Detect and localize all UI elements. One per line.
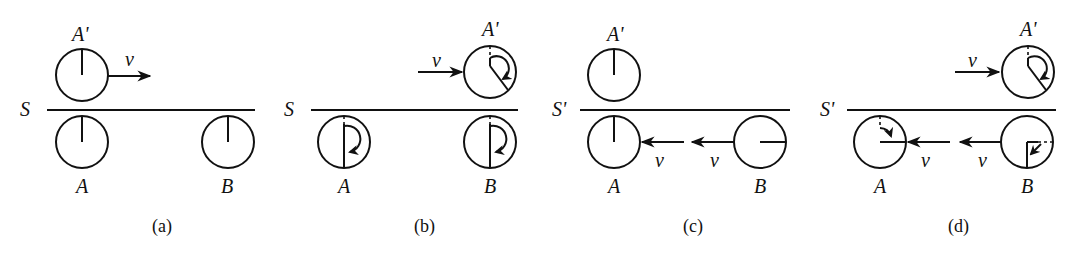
rotation-arrow: [490, 56, 509, 79]
rotation-arrow: [344, 126, 360, 152]
velocity-label: v: [432, 49, 441, 71]
clock-a: [588, 116, 640, 168]
frame-label: S: [20, 98, 30, 120]
velocity-label: v: [655, 149, 664, 171]
clock-b: [1001, 116, 1053, 168]
velocity-label: v: [968, 49, 977, 71]
velocity-label: v: [710, 149, 719, 171]
panel-a: A' v S A B (a): [20, 23, 255, 237]
clock-a: [318, 116, 370, 168]
clock-a-prime: [1002, 46, 1054, 98]
velocity-label: v: [921, 149, 930, 171]
velocity-label: v: [978, 149, 987, 171]
rotation-arrow: [1031, 144, 1041, 154]
panel-b: A' v S A B (b): [284, 18, 518, 237]
clock-label-a-prime: A': [1018, 18, 1037, 40]
clock-b: [202, 116, 254, 168]
rotation-arrow: [490, 126, 506, 152]
clock-a-prime: [56, 49, 108, 101]
velocity-label: v: [125, 48, 134, 70]
clock-label-a-prime: A': [605, 23, 624, 45]
clock-a: [56, 116, 108, 168]
frame-label: S': [552, 98, 567, 120]
panel-caption: (b): [414, 216, 435, 237]
rotation-arrow: [1028, 56, 1047, 79]
panel-caption: (d): [948, 216, 969, 237]
relativity-clocks-figure: A' v S A B (a) A' v S: [0, 0, 1073, 258]
clock-label-a: A: [872, 175, 887, 197]
rotation-arrow: [880, 128, 891, 136]
panel-d: A' v S' v v A B (d): [820, 18, 1056, 237]
clock-a: [854, 116, 906, 168]
clock-b: [734, 116, 786, 168]
clock-label-b: B: [484, 175, 496, 197]
frame-label: S: [284, 98, 294, 120]
clock-label-b: B: [754, 175, 766, 197]
panel-caption: (c): [683, 216, 703, 237]
clock-label-a-prime: A': [70, 23, 89, 45]
clock-a-prime: [464, 46, 516, 98]
clock-b: [464, 116, 516, 168]
clock-a-prime: [588, 49, 640, 101]
clock-label-a: A: [74, 175, 89, 197]
panel-caption: (a): [152, 216, 172, 237]
panel-c: A' S' v A v B (c): [552, 23, 790, 237]
clock-label-a: A: [606, 175, 621, 197]
clock-label-b: B: [221, 175, 233, 197]
clock-label-b: B: [1021, 175, 1033, 197]
frame-label: S': [820, 98, 835, 120]
clock-label-a: A: [336, 175, 351, 197]
clock-label-a-prime: A': [480, 18, 499, 40]
